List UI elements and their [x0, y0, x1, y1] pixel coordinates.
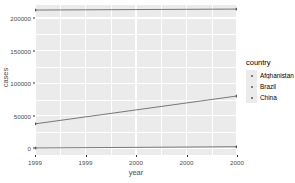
legend: country AfghanistanBrazilChina — [246, 58, 295, 103]
series-brazil — [35, 94, 237, 125]
legend-key-swatch — [246, 81, 257, 92]
series-line — [35, 9, 237, 10]
legend-label: Afghanistan — [260, 72, 294, 79]
series-line — [35, 96, 237, 124]
data-layer — [35, 5, 237, 155]
data-point — [236, 94, 238, 97]
x-tick-mark — [86, 155, 87, 157]
legend-point-icon — [251, 86, 253, 88]
data-point — [236, 8, 238, 11]
y-tick-label: 50000 — [14, 112, 31, 119]
x-tick-label: 2000 — [180, 159, 194, 166]
data-point — [35, 9, 37, 12]
ggplot-chart: cases 050000100000150000200000 199919992… — [0, 0, 295, 183]
legend-entry-afghanistan[interactable]: Afghanistan — [246, 70, 295, 81]
data-point — [236, 145, 238, 148]
legend-entry-brazil[interactable]: Brazil — [246, 81, 295, 92]
x-tick-mark — [187, 155, 188, 157]
series-china — [35, 8, 237, 12]
legend-key-swatch — [246, 70, 257, 81]
y-tick-label: 0 — [28, 145, 31, 152]
y-tick-label: 200000 — [10, 15, 31, 22]
x-tick-label: 1999 — [28, 159, 42, 166]
legend-point-icon — [251, 97, 253, 99]
x-tick-mark — [136, 155, 137, 157]
x-tick-label: 2000 — [230, 159, 244, 166]
y-tick-label: 100000 — [10, 80, 31, 87]
x-axis-title: year — [35, 168, 237, 177]
data-point — [35, 146, 37, 149]
x-tick-mark — [237, 155, 238, 157]
legend-entries: AfghanistanBrazilChina — [246, 70, 295, 103]
legend-label: Brazil — [260, 83, 276, 90]
legend-label: China — [260, 94, 277, 101]
legend-point-icon — [251, 75, 253, 77]
legend-key-swatch — [246, 92, 257, 103]
y-axis: 050000100000150000200000 — [10, 0, 35, 160]
plot-panel — [35, 5, 237, 155]
data-point — [35, 122, 37, 125]
x-tick-mark — [35, 155, 36, 157]
series-afghanistan — [35, 145, 237, 149]
x-tick-label: 1999 — [79, 159, 93, 166]
x-tick-label: 2000 — [129, 159, 143, 166]
y-tick-label: 150000 — [10, 47, 31, 54]
series-line — [35, 147, 237, 148]
legend-title: country — [246, 58, 295, 67]
legend-entry-china[interactable]: China — [246, 92, 295, 103]
